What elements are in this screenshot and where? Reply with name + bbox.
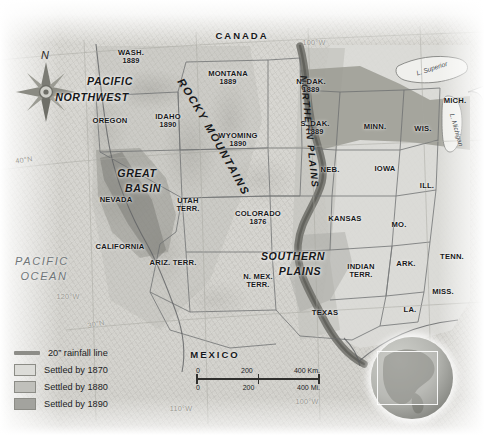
- ocean-label-ocean: OCEAN: [20, 271, 67, 282]
- scale-mi-0: 0: [196, 384, 200, 391]
- state-label-wash: WASH.1889: [118, 49, 144, 64]
- country-label-canada: CANADA: [215, 31, 268, 41]
- state-label-utah: UTAHTERR.: [176, 197, 199, 212]
- state-label-ariz-terr: ARIZ. TERR.: [150, 259, 197, 267]
- graticule-label-100-w-5: 100°W: [302, 39, 325, 46]
- state-label-montana: MONTANA1889: [208, 70, 248, 85]
- region-label-plains: PLAINS: [279, 266, 321, 277]
- country-label-mexico: MEXICO: [190, 350, 239, 360]
- state-label-nevada: NEVADA: [100, 196, 133, 204]
- scale-km-400: 400 Km.: [294, 367, 320, 374]
- state-label-indian: INDIANTERR.: [347, 263, 374, 278]
- graticule-label-110-w-3: 110°W: [170, 405, 193, 412]
- scale-mi-400: 400 Mi.: [297, 384, 320, 391]
- state-label-tenn: TENN.: [440, 253, 464, 261]
- state-label-iowa: IOWA: [374, 165, 395, 173]
- region-label-basin: BASIN: [125, 183, 161, 194]
- ocean-label-pacific: PACIFIC: [15, 256, 69, 267]
- swatch-settled-1890: [14, 398, 36, 410]
- state-label-ark: ARK.: [396, 260, 415, 268]
- scale-km-0: 0: [196, 367, 200, 374]
- globe-region-highlight: [377, 351, 438, 405]
- legend-label-1870: Settled by 1870: [44, 365, 108, 375]
- legend-row-1890: Settled by 1890: [14, 396, 164, 411]
- region-label-great: GREAT: [117, 168, 156, 179]
- scale-bar: 0 200 400 Km. 0 200 400 Mi.: [196, 367, 320, 391]
- legend-row-1880: Settled by 1880: [14, 379, 164, 394]
- graticule-label-40-n-0: 40°N: [15, 155, 33, 165]
- rainfall-line-swatch: [14, 351, 40, 355]
- legend-label-rainfall: 20” rainfall line: [48, 348, 108, 358]
- state-label-idaho: IDAHO1890: [155, 113, 180, 128]
- legend-label-1890: Settled by 1890: [44, 399, 108, 409]
- scale-mi-labels: 0 200 400 Mi.: [196, 384, 320, 391]
- scale-km-200: 200: [241, 367, 253, 374]
- state-label-wyoming: WYOMING1890: [218, 132, 257, 147]
- globe-sphere: [371, 337, 453, 419]
- graticule-label-100-w-4: 100°W: [295, 398, 318, 405]
- globe-locator-inset: [357, 333, 461, 429]
- state-label-mo: MO.: [392, 221, 407, 229]
- legend-row-1870: Settled by 1870: [14, 362, 164, 377]
- state-label-wis: WIS.: [414, 125, 431, 133]
- state-label-mich: MICH.: [444, 97, 467, 105]
- state-label-ill: ILL.: [420, 182, 434, 190]
- state-label-minn: MINN.: [364, 123, 387, 131]
- state-label-miss: MISS.: [432, 288, 454, 296]
- region-label-southern: SOUTHERN: [261, 251, 325, 262]
- state-label-n-dak: N. DAK.1889: [296, 78, 326, 93]
- state-label-kansas: KANSAS: [328, 215, 361, 223]
- state-label-n-mex: N. MEX.TERR.: [243, 273, 273, 288]
- map-legend: 20” rainfall line Settled by 1870 Settle…: [14, 345, 164, 413]
- state-label-oregon: OREGON: [93, 117, 128, 125]
- state-label-texas: TEXAS: [312, 309, 338, 317]
- state-label-la: LA.: [404, 306, 417, 314]
- scale-km-labels: 0 200 400 Km.: [196, 367, 320, 374]
- graticule-label-120-w-2: 120°W: [56, 293, 79, 300]
- scale-mi-200: 200: [243, 384, 255, 391]
- state-label-s-dak: S. DAK.1889: [300, 120, 329, 135]
- legend-label-1880: Settled by 1880: [44, 382, 108, 392]
- region-label-pacific: PACIFIC: [87, 76, 133, 87]
- compass-north-label: N: [41, 50, 49, 61]
- legend-row-rainfall: 20” rainfall line: [14, 345, 164, 360]
- state-label-colorado: COLORADO1876: [235, 210, 281, 225]
- scale-bar-graphic: [196, 374, 320, 384]
- swatch-settled-1870: [14, 364, 36, 376]
- region-label-northwest: NORTHWEST: [55, 92, 128, 103]
- state-label-california: CALIFORNIA: [96, 243, 145, 251]
- historical-map: ROCKY MOUNTAINS NORTHERN PLAINS N WASH.1…: [0, 0, 484, 435]
- swatch-settled-1880: [14, 381, 36, 393]
- state-label-neb: NEB.: [321, 166, 340, 174]
